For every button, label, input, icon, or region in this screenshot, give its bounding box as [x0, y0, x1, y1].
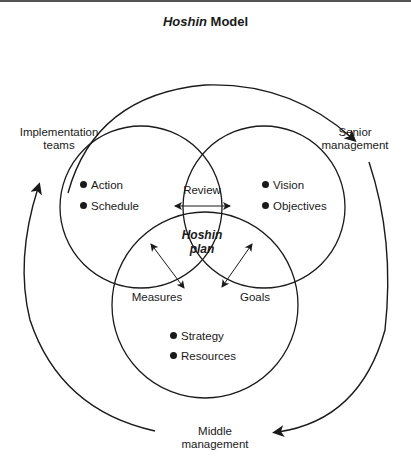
- label-implementation-teams: Implementation teams: [4, 126, 114, 152]
- label-goals: Goals: [225, 291, 285, 304]
- bullet-icon: [262, 181, 269, 188]
- bullet-text: Objectives: [273, 200, 327, 212]
- bullet-schedule: Schedule: [80, 200, 139, 213]
- bullet-objectives: Objectives: [262, 200, 327, 213]
- label-line: Middle: [155, 425, 275, 438]
- label-line: Implementation: [4, 126, 114, 139]
- bullet-resources: Resources: [170, 350, 236, 363]
- label-line: management: [155, 438, 275, 451]
- bullet-icon: [262, 202, 269, 209]
- label-middle-management: Middle management: [155, 425, 275, 451]
- bullet-text: Resources: [181, 350, 236, 362]
- bullet-text: Strategy: [181, 330, 224, 342]
- bullet-icon: [80, 202, 87, 209]
- bullet-text: Vision: [273, 179, 304, 191]
- bullet-icon: [170, 352, 177, 359]
- bullet-icon: [170, 332, 177, 339]
- label-hoshin-plan: Hoshin plan: [172, 228, 232, 256]
- bullet-text: Schedule: [91, 200, 139, 212]
- label-review: Review: [172, 184, 232, 197]
- label-measures: Measures: [122, 291, 192, 304]
- bullet-strategy: Strategy: [170, 330, 224, 343]
- bullet-vision: Vision: [262, 179, 304, 192]
- center-line: plan: [172, 242, 232, 256]
- label-senior-management: Senior management: [300, 126, 410, 152]
- bullet-icon: [80, 181, 87, 188]
- bullet-action: Action: [80, 179, 123, 192]
- label-line: management: [300, 139, 410, 152]
- label-line: Senior: [300, 126, 410, 139]
- label-line: teams: [4, 139, 114, 152]
- center-line: Hoshin: [172, 228, 232, 242]
- bullet-text: Action: [91, 179, 123, 191]
- arc-middle-to-implementation: [24, 188, 155, 431]
